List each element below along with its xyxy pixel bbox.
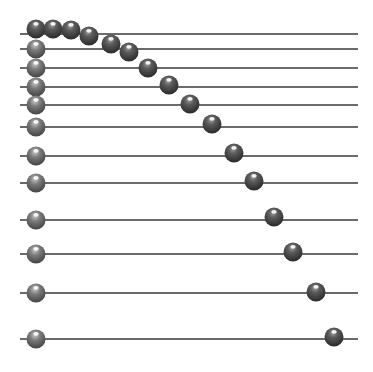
left-bead (27, 118, 46, 137)
diagonal-bead (225, 144, 244, 163)
diagonal-bead (265, 208, 284, 227)
top-cluster-bead (62, 21, 81, 40)
left-bead (27, 78, 46, 97)
beads-group (27, 20, 344, 349)
left-bead (27, 147, 46, 166)
diagonal-bead (160, 76, 179, 95)
top-cluster-bead (102, 35, 121, 54)
diagonal-bead (139, 59, 158, 78)
left-bead (27, 284, 46, 303)
left-bead (27, 245, 46, 264)
left-bead (27, 330, 46, 349)
top-cluster-bead (80, 27, 99, 46)
left-bead (27, 59, 46, 78)
abacus-diagram (0, 0, 373, 372)
diagonal-bead (284, 243, 303, 262)
diagonal-bead (120, 43, 139, 62)
diagonal-bead (203, 115, 222, 134)
left-bead (27, 40, 46, 59)
left-bead (27, 211, 46, 230)
abacus-canvas (0, 0, 373, 372)
diagonal-bead (245, 172, 264, 191)
left-bead (27, 96, 46, 115)
top-cluster-bead (44, 20, 63, 39)
diagonal-bead (181, 95, 200, 114)
diagonal-bead (307, 283, 326, 302)
top-cluster-bead (27, 20, 46, 39)
left-bead (27, 174, 46, 193)
diagonal-bead (325, 328, 344, 347)
